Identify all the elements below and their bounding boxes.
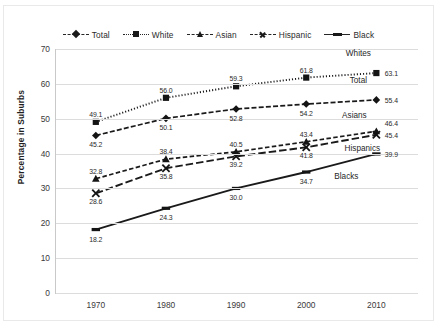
data-label: 41.8 (300, 152, 313, 159)
chart-legend: TotalWhiteAsianHispanicBlack (0, 27, 437, 43)
series-lines (56, 49, 418, 293)
x-tick-label: 1970 (86, 300, 105, 310)
data-label: 24.3 (159, 214, 172, 221)
data-point-marker (373, 96, 381, 104)
data-label: 49.1 (89, 110, 102, 117)
data-point-marker (302, 170, 310, 173)
legend-label: Black (353, 30, 374, 40)
x-tick-label: 1990 (227, 300, 246, 310)
gridline (56, 223, 418, 224)
series-annotation-black: Blacks (334, 171, 358, 180)
legend-swatch-total-icon (63, 30, 89, 40)
data-label: 59.3 (230, 75, 243, 82)
series-annotation-total: Total (350, 75, 367, 84)
y-tick-label: 20 (41, 218, 50, 228)
data-label: 52.8 (230, 114, 243, 121)
data-label: 39.2 (230, 161, 243, 168)
x-tick-label: 2000 (297, 300, 316, 310)
data-point-marker (302, 100, 310, 108)
legend-label: Hispanic (279, 30, 312, 40)
data-label: 18.2 (89, 235, 102, 242)
y-axis-title: Percentage in Suburbs (16, 72, 26, 202)
legend-item-black[interactable]: Black (324, 30, 374, 40)
data-label: 45.4 (385, 131, 398, 138)
legend-label: Total (92, 30, 110, 40)
x-tick-label: 1980 (157, 300, 176, 310)
data-label: 50.1 (159, 124, 172, 131)
data-point-marker (232, 105, 240, 113)
data-label: 45.2 (89, 141, 102, 148)
data-point-marker (162, 207, 170, 210)
data-label: 30.0 (230, 194, 243, 201)
chart-screenshot: TotalWhiteAsianHispanicBlack Percentage … (0, 0, 437, 326)
data-point-marker (92, 132, 100, 140)
data-point-marker (92, 228, 100, 231)
y-tick-label: 30 (41, 183, 50, 193)
data-label: 32.8 (89, 167, 102, 174)
legend-label: White (152, 30, 174, 40)
legend-label: Asian (216, 30, 237, 40)
data-label: 55.4 (385, 96, 398, 103)
y-tick-label: 0 (45, 288, 50, 298)
legend-swatch-asian-icon (187, 30, 213, 40)
data-label: 46.4 (385, 120, 398, 127)
data-point-marker (373, 70, 379, 76)
legend-item-total[interactable]: Total (63, 30, 110, 40)
series-annotation-asian: Asians (342, 111, 367, 120)
legend-item-white[interactable]: White (123, 30, 174, 40)
data-label: 28.6 (89, 198, 102, 205)
series-annotation-hispanic: Hispanics (345, 143, 381, 152)
legend-item-hispanic[interactable]: Hispanic (250, 30, 312, 40)
y-tick-label: 50 (41, 114, 50, 124)
legend-swatch-white-icon (123, 30, 149, 40)
data-label: 39.9 (385, 150, 398, 157)
legend-swatch-black-icon (324, 30, 350, 40)
data-label: 34.7 (300, 178, 313, 185)
x-tick-label: 2010 (367, 300, 386, 310)
y-tick-label: 40 (41, 149, 50, 159)
plot-area: 0102030405060701970198019902000201045.25… (55, 49, 418, 294)
legend-item-asian[interactable]: Asian (187, 30, 237, 40)
data-label: 61.8 (300, 66, 313, 73)
y-tick-label: 60 (41, 79, 50, 89)
data-label: 63.1 (385, 70, 398, 77)
data-point-marker (162, 155, 170, 162)
legend-swatch-hispanic-icon (250, 30, 276, 40)
gridline (56, 293, 418, 294)
gridline (56, 188, 418, 189)
series-annotation-white: Whites (346, 49, 371, 58)
data-label: 56.0 (159, 86, 172, 93)
data-label: 54.2 (300, 110, 313, 117)
data-point-marker (303, 74, 309, 80)
gridline (56, 258, 418, 259)
data-label: 40.5 (230, 140, 243, 147)
data-label: 35.8 (159, 173, 172, 180)
data-label: 43.4 (300, 130, 313, 137)
y-tick-label: 10 (41, 253, 50, 263)
gridline (56, 154, 418, 155)
data-label: 38.4 (159, 148, 172, 155)
data-point-marker (163, 95, 169, 101)
y-tick-label: 70 (41, 44, 50, 54)
